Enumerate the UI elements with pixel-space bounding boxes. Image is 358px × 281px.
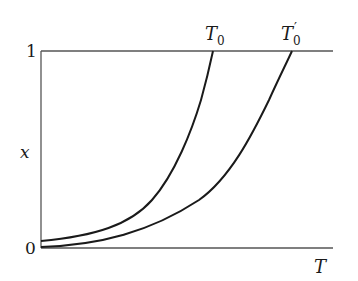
diagram-canvas: 1 0 x T T 0 T ′ 0 (0, 0, 358, 281)
annotation-t0-prime: T ′ 0 (281, 20, 301, 48)
svg-text:0: 0 (217, 34, 225, 48)
y-tick-0: 0 (25, 238, 36, 258)
curve-t0 (41, 51, 213, 241)
curve-t0-prime (41, 51, 292, 247)
svg-text:′: ′ (294, 20, 297, 35)
annotation-t0: T 0 (205, 23, 225, 48)
y-tick-1: 1 (26, 41, 37, 61)
svg-text:0: 0 (293, 34, 301, 48)
y-axis-label: x (20, 142, 30, 162)
x-axis-label: T (314, 256, 328, 277)
